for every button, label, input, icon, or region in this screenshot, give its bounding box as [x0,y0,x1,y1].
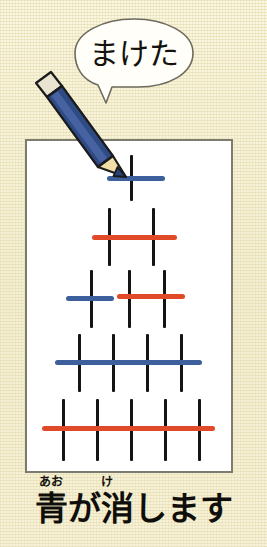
speech-bubble-text: まけた [72,37,196,71]
caption: あお け 青が消します [0,476,267,528]
furigana-ke: け [101,476,113,489]
tally-strike-red [42,426,215,431]
tally-mark [163,270,166,328]
caption-ruby-line: あお け 青が消します [35,476,233,528]
tally-mark [128,270,131,328]
tally-strike-blue [66,296,114,301]
tally-strike-red [92,235,177,240]
comic-panel: まけた あお け 青が消します [0,0,267,547]
speech-bubble: まけた [72,17,196,105]
caption-main-text: 青が消します [35,490,233,528]
tally-strike-red [117,294,185,299]
tally-strike-blue [55,360,202,365]
furigana-ao: あお [39,476,63,489]
